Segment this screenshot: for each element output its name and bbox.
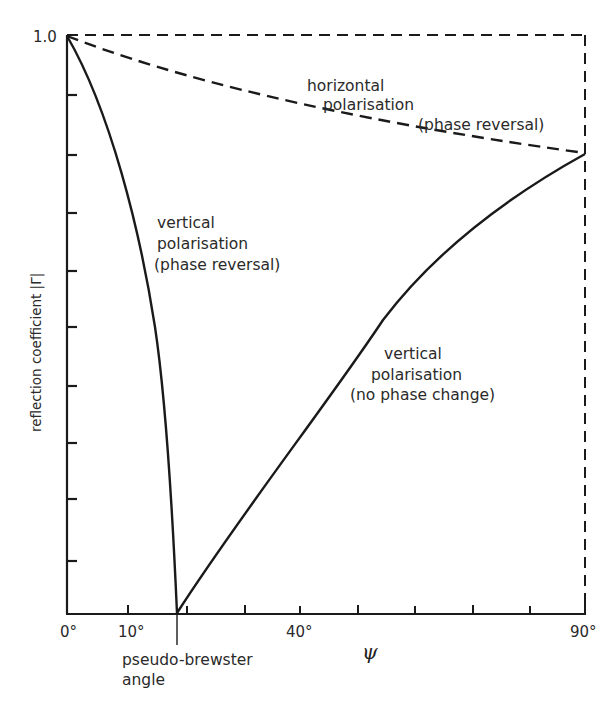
vertical-phase-reversal-curve	[67, 36, 177, 613]
pseudo-brewster-label: pseudo-brewster angle	[122, 651, 253, 689]
svg-text:vertical: vertical	[384, 345, 442, 363]
x-axis-label: ψ	[362, 640, 378, 664]
x-tick-label-0: 0°	[60, 623, 77, 641]
x-tick-label-40: 40°	[286, 623, 313, 641]
svg-text:polarisation: polarisation	[157, 235, 248, 253]
y-tick-label-1: 1.0	[33, 28, 57, 46]
x-tick-label-90: 90°	[570, 623, 597, 641]
svg-text:(no phase change): (no phase change)	[350, 386, 495, 404]
y-axis-label: reflection coefficient |Γ|	[28, 273, 45, 432]
horizontal-polarisation-label: horizontal polarisation (phase reversal)	[307, 77, 544, 134]
svg-text:(phase reversal): (phase reversal)	[418, 116, 544, 134]
svg-text:pseudo-brewster: pseudo-brewster	[122, 651, 253, 669]
svg-text:vertical: vertical	[157, 214, 215, 232]
svg-text:(phase reversal): (phase reversal)	[154, 256, 280, 274]
reflection-coefficient-chart: 1.0 0° 10° 40° 90° reflection coefficien…	[0, 0, 616, 710]
svg-text:polarisation: polarisation	[323, 96, 414, 114]
y-ticks	[67, 95, 77, 561]
x-ticks	[67, 604, 585, 614]
svg-text:angle: angle	[122, 671, 165, 689]
vertical-phase-reversal-label: vertical polarisation (phase reversal)	[154, 214, 280, 274]
svg-text:horizontal: horizontal	[307, 77, 384, 95]
x-tick-label-10: 10°	[118, 623, 145, 641]
vertical-no-phase-change-label: vertical polarisation (no phase change)	[350, 345, 495, 404]
svg-text:polarisation: polarisation	[371, 366, 462, 384]
